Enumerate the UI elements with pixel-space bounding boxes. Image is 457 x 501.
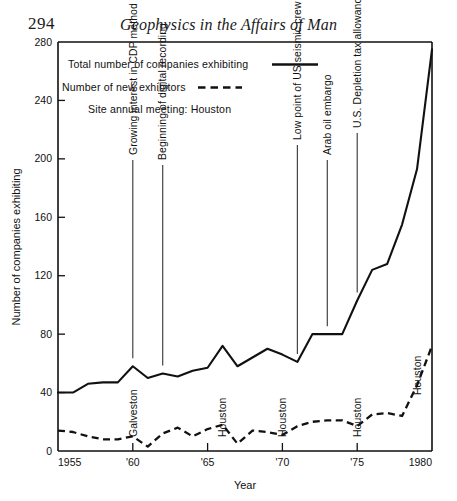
annotation-label: Low point of US seismic crew activity — [292, 0, 303, 140]
site-label: Houston — [277, 397, 288, 437]
x-tick-label: '65 — [201, 456, 215, 468]
x-axis-tick-labels: 1955'60'65'70'751980 — [58, 456, 432, 468]
line-chart: 04080120160200240280 1955'60'65'70'75198… — [0, 0, 457, 501]
annotation-label: Arab oil embargo — [322, 74, 333, 155]
site-label: Houston — [352, 397, 363, 437]
y-tick-label: 120 — [34, 269, 52, 281]
y-tick-label: 0 — [46, 445, 52, 457]
x-axis-ticks — [133, 443, 357, 451]
y-tick-label: 160 — [34, 211, 52, 223]
y-axis-title: Number of companies exhibiting — [10, 168, 22, 325]
x-tick-label: '60 — [126, 456, 140, 468]
y-tick-label: 40 — [40, 386, 52, 398]
annotation-label: Growing interest in CDP method — [128, 3, 139, 155]
site-label-group: GalvestonHoustonHoustonHoustonHouston — [128, 355, 423, 437]
series-total-companies — [58, 49, 432, 392]
site-label: Galveston — [128, 389, 139, 437]
annotation-group: Growing interest in CDP methodBeginning … — [128, 0, 363, 366]
y-axis-ticks — [58, 100, 65, 392]
legend-label-site: Site annual meeting: Houston — [88, 103, 231, 115]
book-page: 294 Geophysics in the Affairs of Man 040… — [0, 0, 457, 501]
annotation-label: U.S. Depletion tax allowance removed — [352, 0, 363, 128]
x-tick-label: 1955 — [58, 456, 82, 468]
y-axis-tick-labels: 04080120160200240280 — [34, 36, 52, 457]
legend-label-new: Number of new exhibitors — [62, 81, 186, 93]
x-tick-label: '70 — [276, 456, 290, 468]
legend: Total number of companies exhibiting Num… — [62, 58, 318, 115]
y-tick-label: 80 — [40, 328, 52, 340]
y-tick-label: 280 — [34, 36, 52, 48]
y-tick-label: 200 — [34, 152, 52, 164]
legend-label-total: Total number of companies exhibiting — [68, 58, 248, 70]
y-tick-label: 240 — [34, 94, 52, 106]
x-tick-label: '75 — [350, 456, 364, 468]
x-tick-label: 1980 — [409, 456, 433, 468]
x-axis-title: Year — [234, 479, 257, 491]
